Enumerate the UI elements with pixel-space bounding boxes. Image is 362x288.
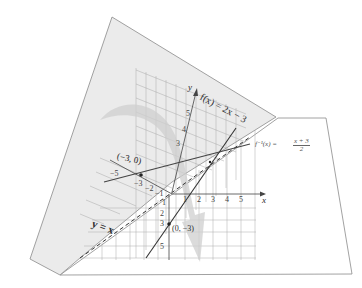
tick-y-neg5: 5 (160, 243, 164, 251)
inverse-function-diagram: f(x) = 2x − 3 f⁻¹(x) = x + 3 2 y = x (−3… (0, 0, 362, 288)
tick-x-neg2: −2 (145, 185, 154, 193)
point-neg3-0 (139, 173, 143, 177)
label-y-axis: y (188, 83, 192, 92)
tick-x-neg3: −3 (134, 180, 143, 188)
tick-x-2: 2 (197, 196, 201, 204)
tick-x-neg1: −1 (155, 190, 164, 198)
tick-x-neg5: −5 (110, 170, 119, 178)
label-f-inverse: f⁻¹(x) = (255, 141, 277, 148)
tick-y-4: 4 (182, 126, 186, 134)
fraction-denominator: 2 (300, 146, 304, 153)
label-f-inverse-fraction: x + 3 2 (293, 138, 310, 154)
tick-y-neg2: 2 (160, 210, 164, 218)
tick-y-5: 5 (186, 110, 190, 118)
tick-x-4: 4 (225, 196, 229, 204)
tick-y-neg1: 1 (162, 199, 166, 207)
tick-y-neg3: 3 (160, 220, 164, 228)
tick-x-3: 3 (211, 196, 215, 204)
tick-y-3: 3 (176, 140, 180, 148)
label-f-inverse-lhs: f⁻¹(x) = (255, 140, 277, 148)
intersection-3-3 (209, 161, 211, 163)
point-0-neg3 (167, 222, 171, 226)
label-point-0-neg3: (0, −3) (172, 225, 194, 233)
tick-x-5: 5 (239, 196, 243, 204)
label-x-axis: x (262, 196, 266, 205)
tick-x-1: 1 (183, 196, 187, 204)
